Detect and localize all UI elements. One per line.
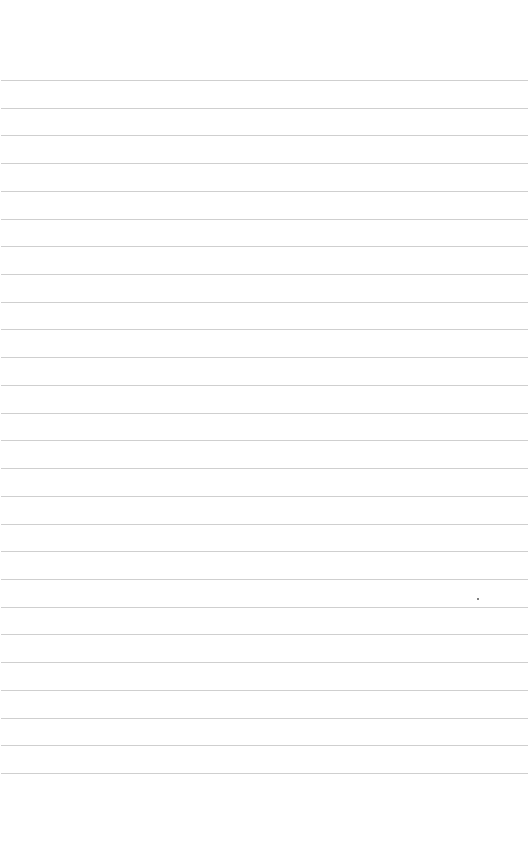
ruled-line	[1, 219, 528, 220]
ruled-line	[1, 634, 528, 635]
ruled-line	[1, 135, 528, 136]
ruled-line	[1, 357, 528, 358]
ruled-line	[1, 718, 528, 719]
ruled-line	[1, 246, 528, 247]
lined-paper	[0, 0, 529, 862]
ruled-line	[1, 607, 528, 608]
ruled-line	[1, 579, 528, 580]
ruled-line	[1, 191, 528, 192]
ruled-line	[1, 690, 528, 691]
ruled-line	[1, 413, 528, 414]
ruled-line	[1, 551, 528, 552]
ruled-line	[1, 662, 528, 663]
ruled-line	[1, 524, 528, 525]
ruled-line	[1, 163, 528, 164]
ruled-line	[1, 745, 528, 746]
ruled-line	[1, 440, 528, 441]
ruled-line	[1, 329, 528, 330]
ruled-line	[1, 773, 528, 774]
ruled-line	[1, 274, 528, 275]
ruled-line	[1, 302, 528, 303]
ruled-line	[1, 496, 528, 497]
ruled-line	[1, 80, 528, 81]
ruled-line	[1, 468, 528, 469]
speck-mark	[477, 598, 479, 600]
ruled-line	[1, 108, 528, 109]
ruled-line	[1, 385, 528, 386]
